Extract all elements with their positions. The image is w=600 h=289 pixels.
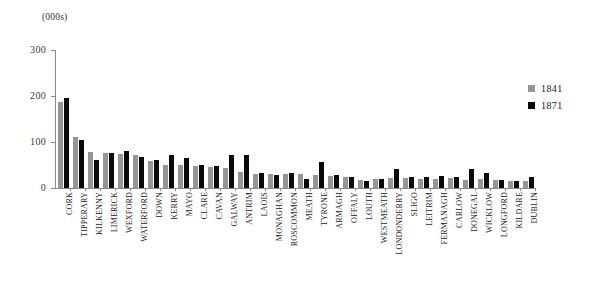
bar-1841[interactable]	[463, 180, 468, 188]
bar-group[interactable]	[57, 50, 70, 188]
bar-1871[interactable]	[244, 155, 249, 188]
bar-group[interactable]	[372, 50, 385, 188]
bar-group[interactable]	[147, 50, 160, 188]
bar-1871[interactable]	[484, 173, 489, 188]
bar-1841[interactable]	[73, 137, 78, 188]
bar-group[interactable]	[192, 50, 205, 188]
bar-1841[interactable]	[403, 178, 408, 188]
bar-1841[interactable]	[433, 179, 438, 188]
bar-1841[interactable]	[388, 178, 393, 188]
bar-1841[interactable]	[238, 172, 243, 188]
bar-1841[interactable]	[163, 165, 168, 188]
bar-1871[interactable]	[424, 177, 429, 189]
bar-1841[interactable]	[118, 154, 123, 188]
bar-group[interactable]	[207, 50, 220, 188]
x-axis-label: KILKENNY	[96, 192, 104, 235]
bar-1871[interactable]	[79, 140, 84, 188]
bar-group[interactable]	[117, 50, 130, 188]
bar-1841[interactable]	[88, 152, 93, 188]
bar-group[interactable]	[387, 50, 400, 188]
bar-1871[interactable]	[514, 181, 519, 188]
bar-1871[interactable]	[259, 173, 264, 188]
bar-group[interactable]	[432, 50, 445, 188]
bar-1841[interactable]	[418, 179, 423, 188]
bar-1871[interactable]	[439, 176, 444, 188]
bar-1841[interactable]	[268, 174, 273, 188]
legend-item-1871[interactable]: 1871	[528, 97, 563, 114]
bar-1871[interactable]	[499, 180, 504, 188]
legend-item-1841[interactable]: 1841	[528, 80, 563, 97]
bar-1841[interactable]	[478, 179, 483, 188]
bar-1871[interactable]	[409, 177, 414, 188]
bar-1841[interactable]	[133, 155, 138, 188]
bar-group[interactable]	[132, 50, 145, 188]
bar-group[interactable]	[252, 50, 265, 188]
bar-1871[interactable]	[214, 166, 219, 188]
bar-1841[interactable]	[448, 178, 453, 188]
bar-1841[interactable]	[508, 181, 513, 188]
bar-1871[interactable]	[304, 179, 309, 188]
bar-1841[interactable]	[58, 102, 63, 188]
bar-group[interactable]	[357, 50, 370, 188]
bar-1841[interactable]	[193, 166, 198, 188]
bar-1871[interactable]	[289, 173, 294, 188]
bar-1871[interactable]	[124, 151, 129, 188]
bar-1841[interactable]	[328, 176, 333, 188]
bar-group[interactable]	[507, 50, 520, 188]
bar-1841[interactable]	[358, 180, 363, 188]
bar-1871[interactable]	[394, 169, 399, 188]
bar-group[interactable]	[102, 50, 115, 188]
bar-1841[interactable]	[343, 177, 348, 188]
bar-1871[interactable]	[154, 160, 159, 188]
bar-group[interactable]	[447, 50, 460, 188]
bar-1841[interactable]	[283, 174, 288, 188]
bar-group[interactable]	[492, 50, 505, 188]
bar-group[interactable]	[417, 50, 430, 188]
bar-group[interactable]	[72, 50, 85, 188]
bar-1871[interactable]	[349, 177, 354, 188]
bar-1841[interactable]	[298, 174, 303, 188]
bar-1841[interactable]	[493, 180, 498, 188]
bar-group[interactable]	[522, 50, 535, 188]
bar-group[interactable]	[297, 50, 310, 188]
bar-1871[interactable]	[319, 162, 324, 188]
bar-1871[interactable]	[169, 155, 174, 188]
bar-group[interactable]	[162, 50, 175, 188]
bar-1871[interactable]	[94, 160, 99, 188]
bar-group[interactable]	[237, 50, 250, 188]
bar-group[interactable]	[342, 50, 355, 188]
bar-1841[interactable]	[523, 181, 528, 188]
bar-group[interactable]	[267, 50, 280, 188]
bar-1871[interactable]	[109, 153, 114, 188]
bar-1871[interactable]	[229, 155, 234, 188]
bar-1871[interactable]	[334, 175, 339, 188]
bar-1871[interactable]	[379, 179, 384, 188]
bar-group[interactable]	[282, 50, 295, 188]
bar-1871[interactable]	[199, 165, 204, 188]
bar-1841[interactable]	[223, 168, 228, 188]
bar-group[interactable]	[177, 50, 190, 188]
bar-1871[interactable]	[139, 157, 144, 188]
bar-1871[interactable]	[184, 158, 189, 188]
bar-1841[interactable]	[208, 167, 213, 188]
bar-1871[interactable]	[364, 181, 369, 188]
bar-group[interactable]	[477, 50, 490, 188]
bar-1841[interactable]	[253, 174, 258, 188]
bar-group[interactable]	[222, 50, 235, 188]
bar-group[interactable]	[402, 50, 415, 188]
bar-group[interactable]	[327, 50, 340, 188]
x-axis-label: LOUTH	[366, 192, 374, 220]
bar-1841[interactable]	[103, 153, 108, 188]
bar-1871[interactable]	[529, 177, 534, 189]
bar-1841[interactable]	[373, 179, 378, 188]
bar-1841[interactable]	[313, 175, 318, 188]
bar-1871[interactable]	[454, 177, 459, 188]
bar-1871[interactable]	[469, 169, 474, 188]
bar-group[interactable]	[87, 50, 100, 188]
bar-1841[interactable]	[178, 165, 183, 188]
bar-group[interactable]	[312, 50, 325, 188]
bar-1871[interactable]	[64, 98, 69, 188]
bar-group[interactable]	[462, 50, 475, 188]
bar-1871[interactable]	[274, 175, 279, 188]
bar-1841[interactable]	[148, 161, 153, 188]
